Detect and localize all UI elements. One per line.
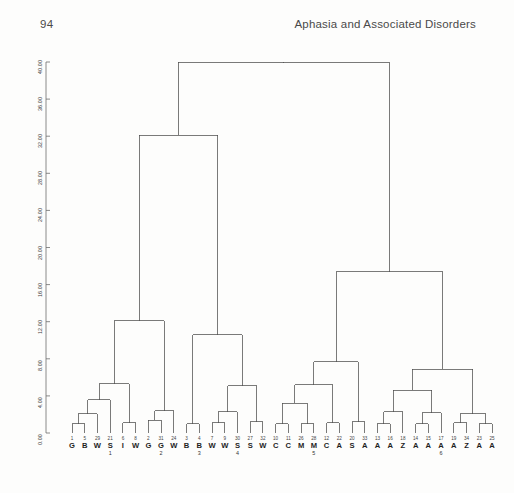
y-axis-tick-label: 4.00: [37, 397, 43, 408]
y-axis-tick-label: 32.00: [37, 134, 43, 148]
dendrogram-tree: [72, 62, 492, 433]
y-axis-tick-label: 16.00: [37, 283, 43, 297]
y-axis-tick-label: 36.00: [37, 97, 43, 111]
leaf-code: A: [485, 441, 499, 450]
y-axis-tick-label: 40.00: [37, 60, 43, 74]
y-axis-tick-label: 12.00: [37, 320, 43, 334]
y-axis-tick-label: 0.00: [37, 434, 43, 445]
dendrogram-leaf-label: 25A.: [485, 436, 499, 456]
book-page: 94 Aphasia and Associated Disorders 0.00…: [0, 0, 514, 493]
y-axis-tick-label: 24.00: [37, 208, 43, 222]
y-axis-tick-label: 28.00: [37, 171, 43, 185]
y-axis-tick-label: 20.00: [37, 246, 43, 260]
dendrogram-figure: 0.004.008.0012.0016.0020.0024.0028.0032.…: [0, 0, 514, 493]
y-axis-tick-label: 8.00: [37, 360, 43, 371]
dendrogram-canvas: [0, 0, 514, 493]
y-axis: [46, 62, 50, 433]
